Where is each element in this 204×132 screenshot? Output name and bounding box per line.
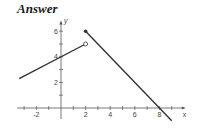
y-axis-arrow-icon bbox=[59, 21, 62, 25]
endpoint-markers bbox=[84, 29, 88, 46]
filled-dot-icon bbox=[84, 29, 88, 33]
y-tick-label: 6 bbox=[54, 28, 58, 35]
x-axis-label: x bbox=[183, 111, 187, 118]
axes: xy bbox=[17, 17, 187, 119]
x-tick-label: 8 bbox=[157, 111, 161, 118]
x-tick-label: 4 bbox=[108, 111, 112, 118]
y-axis-label: y bbox=[63, 17, 68, 25]
x-axis-arrow-icon bbox=[182, 106, 186, 109]
piecewise-function-plot: xy -22468246 bbox=[0, 0, 204, 132]
segment-1-line bbox=[19, 44, 85, 79]
x-tick-label: 2 bbox=[84, 111, 88, 118]
y-tick-label: 2 bbox=[54, 79, 58, 86]
open-circle-icon bbox=[84, 42, 88, 46]
segment-2-line bbox=[86, 31, 172, 121]
ticks: -22468246 bbox=[24, 28, 172, 118]
x-tick-label: 6 bbox=[133, 111, 137, 118]
x-tick-label: -2 bbox=[33, 111, 39, 118]
data-series bbox=[19, 31, 172, 121]
